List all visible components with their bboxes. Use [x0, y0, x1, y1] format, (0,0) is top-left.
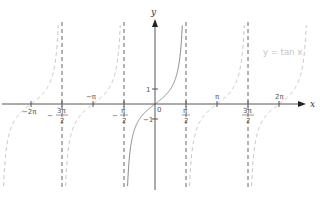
tick-label-pi: π [215, 93, 220, 101]
svg-text:2: 2 [246, 117, 250, 125]
tick-label-neg-three-pi-over-2: − 3π 2 [47, 107, 68, 125]
svg-text:2: 2 [122, 117, 126, 125]
tick-label-y-one: 1 [146, 86, 150, 94]
origin-label: 0 [157, 106, 161, 114]
svg-text:π: π [121, 107, 126, 115]
x-axis-label: x [310, 99, 315, 109]
svg-text:2: 2 [184, 117, 188, 125]
svg-text:3π: 3π [243, 107, 252, 115]
tick-label-y-neg-one: −1 [143, 116, 153, 124]
tick-label-neg-pi: −π [86, 93, 97, 101]
svg-text:3π: 3π [57, 107, 66, 115]
svg-text:2: 2 [60, 117, 64, 125]
y-axis-label: y [150, 7, 157, 17]
svg-text:π: π [183, 107, 188, 115]
tick-label-neg-pi-over-2: − π 2 [112, 107, 128, 125]
tick-label-neg-two-pi: −2π [22, 108, 37, 116]
tick-label-two-pi: 2π [275, 93, 284, 101]
y-axis-arrow-icon [152, 19, 158, 27]
legend-label: y = tan x [263, 47, 302, 57]
svg-text:−: − [47, 112, 53, 120]
svg-text:−: − [112, 112, 118, 120]
tan-chart: x y −2π −π π 2π − 3π 2 − π 2 π 2 3π 2 1 … [0, 0, 328, 201]
x-axis-arrow-icon [298, 101, 306, 107]
